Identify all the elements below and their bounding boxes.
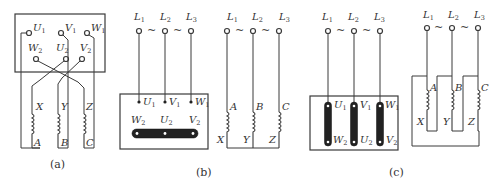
label-x: X <box>216 134 225 145</box>
label-y: Y <box>243 134 251 145</box>
label-v1: V1 <box>65 22 76 35</box>
label-l2-b2: L2 <box>251 11 263 24</box>
label-x: X <box>416 116 425 127</box>
line-terminal-l2-b <box>163 29 168 34</box>
tilde-icon: ~ <box>147 24 156 37</box>
label-l1-c: L1 <box>321 11 333 24</box>
label-l1-b: L1 <box>133 11 145 24</box>
bar-dot <box>353 105 356 108</box>
label-w2-b: W2 <box>131 114 145 127</box>
tilde-icon: ~ <box>261 24 270 37</box>
line-terminal <box>476 26 481 31</box>
label-v1-c: V1 <box>360 99 371 112</box>
line-terminal-l3-b <box>189 29 194 34</box>
delta-loop-outer <box>412 76 479 146</box>
coil-yb <box>58 114 60 148</box>
wire-w2-z <box>38 61 84 104</box>
caption-a: (a) <box>50 158 65 171</box>
label-w1: W1 <box>91 22 105 35</box>
label-w1-b: W1 <box>195 96 209 109</box>
label-l2-c2: L2 <box>447 9 459 22</box>
coil-c <box>478 90 480 131</box>
label-z: Z <box>467 116 476 127</box>
bar-dot <box>136 132 139 135</box>
label-u1-b: U1 <box>143 96 156 109</box>
label-l3-b2: L3 <box>278 11 290 24</box>
line-terminal <box>352 29 357 34</box>
label-u1-c: U1 <box>334 99 347 112</box>
line-terminal <box>425 26 430 31</box>
bar-dot <box>379 105 382 108</box>
label-w2-c: W2 <box>333 134 347 147</box>
coil-a <box>427 90 429 131</box>
line-terminal <box>450 26 455 31</box>
label-w1-c: W1 <box>385 99 399 112</box>
label-a: A <box>229 101 237 112</box>
label-z: Z <box>268 134 277 145</box>
label-u1: U1 <box>33 22 46 35</box>
label-u2-b: U2 <box>160 114 173 127</box>
label-v2: V2 <box>80 42 91 55</box>
delta-link-bar-2 <box>351 102 358 146</box>
caption-c: (c) <box>389 166 404 179</box>
label-l2-c: L2 <box>347 11 359 24</box>
label-c: C <box>282 101 290 112</box>
label-x: X <box>35 101 44 112</box>
panel-c-delta-equivalent: L1 L2 L3 ~ ~ A B C X Y Z <box>412 9 489 146</box>
label-c: C <box>86 137 94 148</box>
delta-link-bar-3 <box>377 102 384 146</box>
line-terminal <box>277 29 282 34</box>
label-l1-c2: L1 <box>422 9 434 22</box>
motor-connection-diagram: U1 V1 W1 W2 U2 V2 X Y Z A B C <box>0 0 500 182</box>
bar-dot <box>327 105 330 108</box>
label-a: A <box>33 137 41 148</box>
terminal-w1-b <box>189 100 192 103</box>
delta-link-bar-1 <box>325 102 332 146</box>
label-v2-c: V2 <box>386 134 397 147</box>
label-z: Z <box>85 101 94 112</box>
terminal-u1 <box>27 31 32 36</box>
coil-b <box>452 90 454 131</box>
bar-dot <box>327 141 330 144</box>
tilde-icon: ~ <box>336 24 345 37</box>
tilde-icon: ~ <box>434 21 443 34</box>
terminal-v1 <box>59 31 64 36</box>
terminal-u1-b <box>137 100 140 103</box>
label-u2: U2 <box>56 42 69 55</box>
terminal-w2 <box>34 57 39 62</box>
label-l3-c2: L3 <box>473 9 485 22</box>
terminal-v1-b <box>163 100 166 103</box>
bar-dot <box>353 141 356 144</box>
line-terminal <box>378 29 383 34</box>
label-a: A <box>429 82 437 93</box>
label-l2-b: L2 <box>159 11 171 24</box>
caption-b: (b) <box>196 166 212 179</box>
bar-dot <box>192 132 195 135</box>
panel-b-star-equivalent: L1 L2 L3 ~ ~ A B C X Y Z <box>216 11 290 148</box>
line-terminal <box>251 29 256 34</box>
terminal-v2 <box>80 57 85 62</box>
panel-a: U1 V1 W1 W2 U2 V2 X Y Z A B C <box>15 14 105 171</box>
bar-dot <box>164 132 167 135</box>
label-v1-b: V1 <box>169 96 180 109</box>
terminal-w1 <box>85 31 90 36</box>
label-w2: W2 <box>28 42 42 55</box>
line-terminal-l1-b <box>137 29 142 34</box>
label-y: Y <box>443 116 451 127</box>
label-v2-b: V2 <box>189 114 200 127</box>
line-terminal <box>225 29 230 34</box>
label-l3-c: L3 <box>373 11 385 24</box>
tilde-icon: ~ <box>235 24 244 37</box>
bar-dot <box>379 141 382 144</box>
coil-a <box>227 112 229 148</box>
label-l3-b: L3 <box>185 11 197 24</box>
tilde-icon: ~ <box>173 24 182 37</box>
tilde-icon: ~ <box>362 24 371 37</box>
panel-b: L1 L2 L3 ~ ~ U1 V1 W1 W2 U2 V2 (b) <box>120 11 212 179</box>
line-terminal <box>326 29 331 34</box>
label-l1-b2: L1 <box>226 11 238 24</box>
tilde-icon: ~ <box>460 21 469 34</box>
wire-v2-y <box>58 61 80 104</box>
label-c: C <box>481 82 489 93</box>
label-u2-c: U2 <box>360 134 373 147</box>
